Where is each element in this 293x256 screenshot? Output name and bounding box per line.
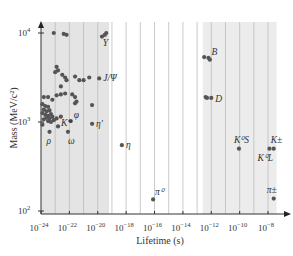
y-tick-label: 102 <box>18 204 30 216</box>
x-tick-label: 10−16 <box>143 221 163 233</box>
data-point <box>209 96 213 100</box>
data-point <box>56 68 60 72</box>
data-point <box>52 31 56 35</box>
point-label: K± <box>270 135 283 145</box>
data-point <box>47 130 51 134</box>
y-tick-label: 103 <box>18 115 30 127</box>
data-point <box>42 95 46 99</box>
data-point <box>63 91 67 95</box>
data-point <box>267 147 271 151</box>
point-label: J/Ψ <box>103 73 118 83</box>
data-point <box>202 55 206 59</box>
point-label: K⁰L <box>256 153 273 163</box>
point-label: B <box>211 47 217 57</box>
data-point <box>77 78 81 82</box>
point-label: φ <box>74 110 79 120</box>
data-point <box>64 78 68 82</box>
data-point <box>73 95 77 99</box>
x-tick-label: 10−20 <box>86 221 105 233</box>
data-point <box>64 33 68 37</box>
data-point <box>55 93 59 97</box>
data-point <box>237 147 241 151</box>
data-point <box>151 197 155 201</box>
data-point <box>103 33 107 37</box>
point-label: η <box>126 140 131 150</box>
data-point <box>42 117 46 121</box>
x-tick-label: 10−24 <box>29 221 49 233</box>
y-tick-labels: 102103104 <box>18 26 44 216</box>
y-axis-title: Mass (MeV/c²) <box>8 87 20 148</box>
data-point <box>272 147 276 151</box>
point-label: D <box>214 94 222 104</box>
x-tick-label: 10−12 <box>200 221 219 233</box>
data-point <box>66 130 70 134</box>
x-tick-label: 10−14 <box>171 221 191 233</box>
point-label: K⁰S <box>233 135 249 145</box>
point-label: π⁰ <box>155 187 165 197</box>
data-point <box>90 122 94 126</box>
data-point <box>272 196 276 200</box>
x-tick-label: 10−8 <box>258 221 274 233</box>
x-tick-label: 10−10 <box>228 221 247 233</box>
data-point <box>87 75 91 79</box>
data-point <box>56 124 60 128</box>
x-axis-title: Lifetime (s) <box>136 235 183 247</box>
data-point <box>205 96 209 100</box>
scatter-chart: 10−2410−2210−2010−1810−1610−1410−1210−10… <box>0 0 293 256</box>
y-tick-label: 104 <box>18 26 31 38</box>
data-point <box>59 92 63 96</box>
data-point <box>40 123 44 127</box>
data-point <box>50 98 54 102</box>
data-point <box>90 103 94 107</box>
data-point <box>59 84 63 88</box>
point-label: η′ <box>96 119 104 129</box>
data-point <box>46 95 50 99</box>
data-point <box>81 78 85 82</box>
point-label: ρ <box>46 136 52 146</box>
point-label: π± <box>267 185 277 195</box>
point-label: K* <box>60 118 72 128</box>
data-point <box>73 75 77 79</box>
data-point <box>73 101 77 105</box>
x-tick-label: 10−18 <box>115 221 134 233</box>
data-point <box>55 116 59 120</box>
x-axis-arrow-icon <box>284 211 291 217</box>
point-label: ω <box>68 136 75 146</box>
data-point <box>120 143 124 147</box>
data-point <box>206 56 210 60</box>
x-tick-label: 10−22 <box>58 221 77 233</box>
data-point <box>97 76 101 80</box>
